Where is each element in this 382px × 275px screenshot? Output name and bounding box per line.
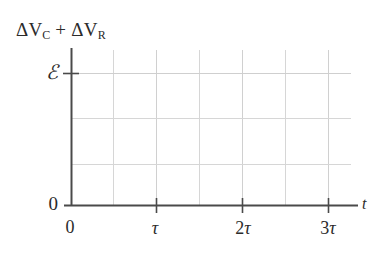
axes [64, 48, 358, 206]
figure-canvas: ΔVC+ΔVR ℰ 0 0 τ 2τ 3τ t [0, 0, 382, 275]
axis-ticks [63, 74, 329, 214]
plot-area [0, 0, 382, 275]
